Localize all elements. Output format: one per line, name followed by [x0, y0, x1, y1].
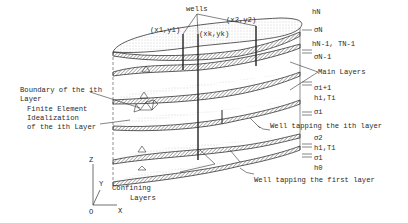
axis-origin-label: O	[89, 208, 93, 216]
label-main-layers: Main Layers	[318, 68, 365, 76]
label-xkyk: (xk,yk)	[199, 30, 229, 38]
label-boundary-1: Boundary of the ith	[20, 86, 102, 94]
label-sigmaN1: σN-1	[314, 53, 331, 61]
label-hN: hN	[312, 8, 321, 16]
label-sigma-i1: σi+1	[314, 84, 331, 92]
label-confining-2: Layers	[130, 194, 156, 202]
label-h1T1: h1,T1	[314, 144, 336, 152]
label-wells: wells	[186, 5, 208, 13]
axis-x-label: X	[118, 207, 122, 215]
label-well-first: Well tapping the first layer	[254, 176, 375, 184]
label-sigma2: σ2	[314, 134, 323, 142]
label-x1y1: (x1,y1)	[150, 26, 180, 34]
label-fe-3: of the ith Layer	[27, 123, 96, 131]
label-sigma1: σ1	[314, 154, 323, 162]
label-x2y2: (x2,y2)	[226, 16, 256, 24]
label-well-ith: Well tapping the ith layer	[270, 122, 382, 130]
axis-z-label: Z	[89, 156, 93, 164]
label-confining-1: Confining	[112, 184, 151, 192]
label-sigma-i: σi	[314, 108, 323, 116]
label-h0: h0	[314, 164, 323, 172]
axis-y-label: Y	[99, 180, 103, 188]
label-hiTi-upper: hi,Ti	[314, 94, 336, 102]
label-fe-1: Finite Element	[27, 105, 87, 113]
label-sigmaN: σN	[314, 26, 323, 34]
label-boundary-2: Layer	[20, 95, 42, 103]
label-hN1TN1: hN-1, TN-1	[312, 40, 355, 48]
label-fe-2: Idealization	[27, 114, 79, 122]
